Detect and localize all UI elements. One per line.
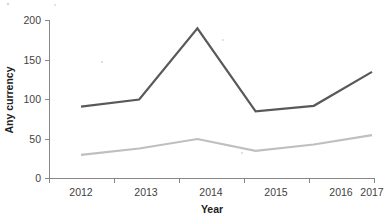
y-tick-label-100: 100	[23, 93, 41, 105]
line-chart: 200 150 100 50 0 2012 2013 2014 2015 201…	[0, 0, 386, 223]
x-tick-label-2014: 2014	[199, 186, 223, 198]
y-tick-label-50: 50	[29, 133, 41, 145]
y-tick-label-0: 0	[35, 172, 41, 184]
x-tick-label-2015: 2015	[264, 186, 288, 198]
y-tick-label-150: 150	[23, 54, 41, 66]
x-tick-label-2016: 2016	[329, 186, 353, 198]
x-axis-title: Year	[201, 203, 223, 215]
x-tick-label-2013: 2013	[134, 186, 158, 198]
y-tick-label-200: 200	[23, 14, 41, 26]
x-tick-label-2017: 2017	[360, 186, 384, 198]
chart-canvas: 200 150 100 50 0 2012 2013 2014 2015 201…	[0, 0, 386, 223]
y-axis-title: Any currency	[3, 66, 15, 133]
x-tick-label-2012: 2012	[69, 186, 93, 198]
